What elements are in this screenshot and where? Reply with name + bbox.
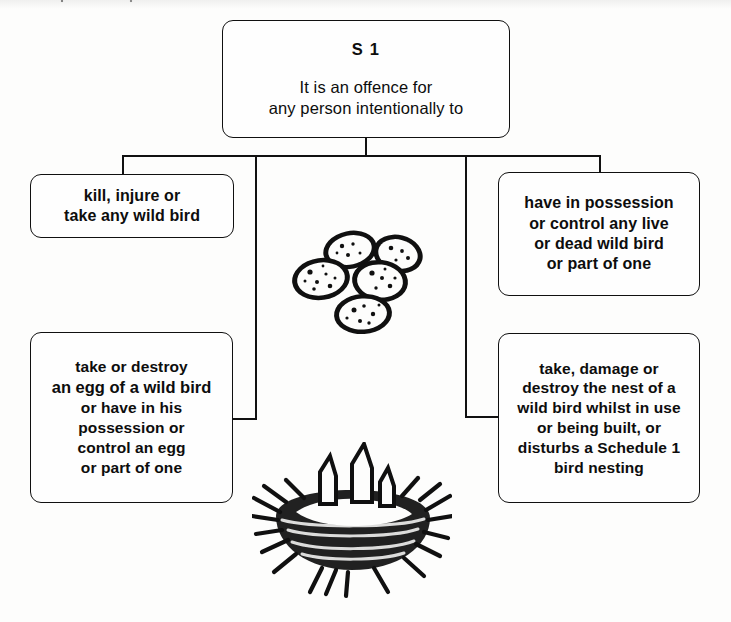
connector-horizontal-bus bbox=[122, 155, 601, 157]
connector-drop-egg bbox=[255, 155, 257, 420]
node-egg-line-3: or have in his bbox=[81, 398, 182, 418]
node-poss-line-3: or dead wild bird bbox=[534, 234, 664, 254]
node-take-or-destroy-egg: take or destroy an egg of a wild bird or… bbox=[30, 332, 233, 503]
node-nest-line-3: wild bird whilst in use bbox=[517, 398, 680, 418]
node-root-line-1: It is an offence for bbox=[300, 77, 433, 98]
connector-drop-nest bbox=[465, 155, 467, 418]
node-poss-line-4: or part of one bbox=[547, 254, 652, 274]
eggs-illustration bbox=[290, 226, 426, 336]
node-kill-line-2: take any wild bird bbox=[64, 206, 200, 226]
node-root: S 1 It is an offence for any person inte… bbox=[222, 20, 510, 138]
connector-elbow-egg bbox=[233, 418, 257, 420]
node-have-in-possession: have in possession or control any live o… bbox=[498, 172, 700, 296]
node-kill-line-1: kill, injure or bbox=[84, 186, 181, 206]
node-nest-line-2: destroy the nest of a bbox=[522, 378, 676, 398]
node-egg-line-6: or part of one bbox=[81, 458, 182, 478]
node-egg-line-2: an egg of a wild bird bbox=[52, 377, 212, 398]
node-egg-line-5: control an egg bbox=[77, 438, 185, 458]
node-poss-line-1: have in possession bbox=[524, 193, 673, 213]
connector-drop-possession bbox=[599, 155, 601, 173]
node-root-heading: S 1 bbox=[352, 39, 380, 60]
node-egg-line-4: possession or bbox=[78, 418, 184, 438]
node-nest-line-5: disturbs a Schedule 1 bbox=[518, 438, 680, 458]
node-root-line-2: any person intentionally to bbox=[269, 98, 463, 119]
node-damage-destroy-nest: take, damage or destroy the nest of a wi… bbox=[498, 333, 700, 503]
node-poss-line-2: or control any live bbox=[529, 214, 669, 234]
nest-illustration bbox=[252, 442, 452, 602]
connector-drop-kill bbox=[122, 155, 124, 175]
node-nest-line-4: or being built, or bbox=[537, 418, 661, 438]
node-nest-line-6: bird nesting bbox=[554, 458, 644, 478]
node-egg-line-1: take or destroy bbox=[75, 357, 188, 377]
scan-artifact bbox=[0, 0, 731, 9]
connector-elbow-nest bbox=[465, 416, 499, 418]
node-nest-line-1: take, damage or bbox=[539, 359, 659, 379]
flowchart-page: S 1 It is an offence for any person inte… bbox=[0, 0, 731, 622]
node-kill-injure-take: kill, injure or take any wild bird bbox=[30, 174, 234, 238]
